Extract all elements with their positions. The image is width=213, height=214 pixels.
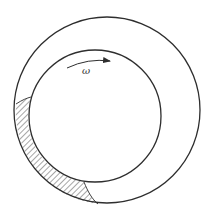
omega-label: ω [82, 65, 90, 76]
bearing-diagram: ω [0, 0, 213, 214]
diagram-container: ω [0, 0, 213, 214]
inner-circle [29, 50, 161, 182]
